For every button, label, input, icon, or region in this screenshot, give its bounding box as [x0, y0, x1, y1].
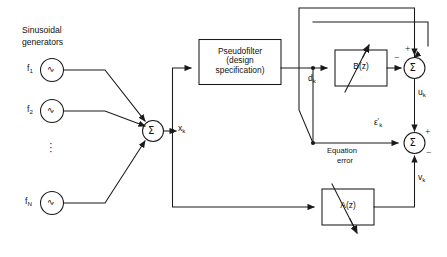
- equation-error-line1: Equation: [327, 147, 357, 156]
- lower-summer-symbol: Σ: [410, 137, 416, 148]
- bfilter-label: B(z): [335, 62, 387, 71]
- signal-label-vk: vk: [418, 173, 425, 183]
- signal-label-epsilon-k: ε′k: [374, 118, 382, 128]
- wire-outer-feedback-left: [299, 8, 415, 143]
- upper-summer-symbol: Σ: [410, 62, 416, 73]
- source-title-line2: generators: [22, 38, 63, 48]
- pseudofilter-line3: specification): [199, 66, 281, 75]
- wire-feedback-into-upper-summer: [415, 46, 429, 58]
- equation-error-line2: error: [337, 157, 353, 166]
- block-diagram: Sinusoidal generators f1 f2 fN ∿ ∿ ∿ ···…: [0, 0, 447, 257]
- wire-inner-feedback-rail: [313, 22, 428, 46]
- wire-f1-to-summer: [64, 70, 146, 121]
- pseudofilter-label: Pseudofilter (design specification): [199, 47, 281, 75]
- lower-summer-minus-sign: −: [426, 148, 431, 159]
- lower-summer-plus-sign: +: [425, 127, 430, 138]
- generator-label-f1: f1: [27, 64, 33, 74]
- source-title-line1: Sinusoidal: [22, 26, 62, 36]
- afilter-label: A(z): [322, 201, 374, 210]
- wire-xk-to-pseudofilter: [173, 68, 192, 131]
- wire-xk-to-afilter: [173, 131, 315, 207]
- upper-summer-plus-sign: +: [405, 44, 410, 55]
- sine-wave-icon-f2: ∿: [47, 105, 55, 115]
- signal-label-xk: xk: [178, 124, 185, 134]
- adapt-arrow-afilter-head: [350, 219, 357, 233]
- vertical-ellipsis: ···: [49, 141, 53, 154]
- signal-label-uk: uk: [418, 88, 426, 98]
- wiring-layer: [0, 0, 447, 257]
- sine-wave-icon-fN: ∿: [47, 197, 55, 207]
- upper-summer-minus-sign: −: [394, 53, 399, 64]
- generator-label-f2: f2: [27, 105, 33, 115]
- wire-f2-to-summer: [64, 111, 146, 126]
- input-summer-symbol: Σ: [148, 125, 154, 136]
- wire-fN-to-summer: [64, 141, 146, 203]
- signal-label-dk: dk: [308, 74, 316, 84]
- wire-afilter-to-lower-summer: [374, 156, 415, 207]
- sine-wave-icon-f1: ∿: [47, 64, 55, 74]
- generator-label-fN: fN: [25, 197, 32, 207]
- adapt-arrow-bfilter-head: [363, 45, 369, 57]
